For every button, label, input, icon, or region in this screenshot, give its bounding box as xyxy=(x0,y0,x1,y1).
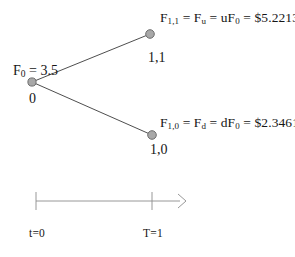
down-node-formula: F1,0 = Fd = dF0 = $2.3461 xyxy=(160,116,295,130)
node-root-marker xyxy=(28,78,36,86)
up-node-formula: F1,1 = Fu = uF0 = $5.2213 xyxy=(160,11,295,25)
up-formula-eq2: = uF xyxy=(206,10,235,25)
up-formula-value: = $5.2213 xyxy=(240,10,295,25)
timeline-arrowhead-icon xyxy=(178,194,186,208)
down-formula-eq1: = F xyxy=(179,115,201,130)
node-up-marker xyxy=(146,30,155,39)
root-formula-rest: = 3.5 xyxy=(26,63,58,78)
branch-down-line xyxy=(32,82,152,135)
root-node-formula: F0 = 3.5 xyxy=(13,64,58,78)
node-label-down: 1,0 xyxy=(150,143,168,157)
down-formula-f1: F xyxy=(160,115,168,130)
down-formula-eq2: = dF xyxy=(206,115,235,130)
node-label-up: 1,1 xyxy=(148,51,166,65)
binomial-tree-diagram: F1,1 = Fu = uF0 = $5.2213 F1,0 = Fd = dF… xyxy=(0,0,295,257)
down-formula-f1-sub: 1,0 xyxy=(168,121,180,131)
up-formula-f1-sub: 1,1 xyxy=(168,16,180,26)
up-formula-eq1: = F xyxy=(179,10,201,25)
node-down-marker xyxy=(148,131,157,140)
root-formula-prefix: F xyxy=(13,63,21,78)
timeline-label-end: T=1 xyxy=(143,228,163,240)
down-formula-value: = $2.3461 xyxy=(240,115,295,130)
up-formula-f1: F xyxy=(160,10,168,25)
timeline-label-start: t=0 xyxy=(29,228,45,240)
node-label-root: 0 xyxy=(29,92,36,106)
